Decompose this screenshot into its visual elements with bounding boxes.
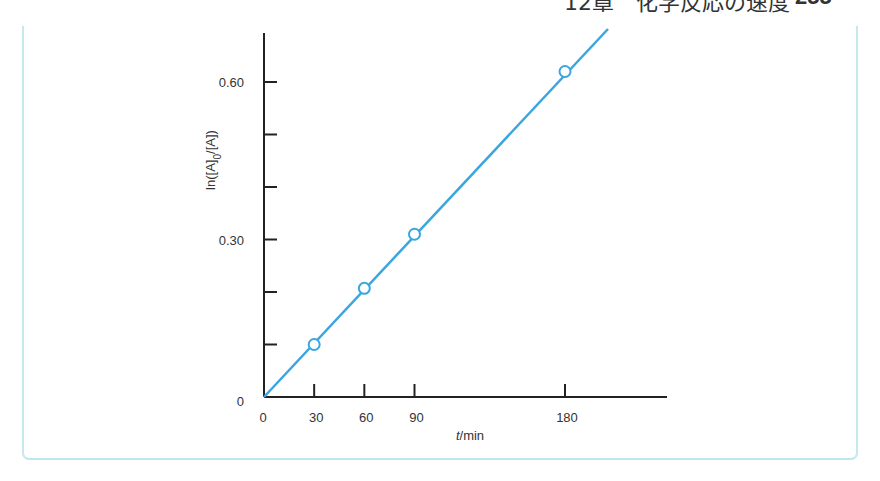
x-tick-label: 0 bbox=[259, 410, 266, 425]
x-axis-title: t/min bbox=[456, 428, 484, 443]
y-axis-title: ln([A]0/[A]) bbox=[203, 130, 223, 190]
data-point bbox=[309, 339, 320, 350]
x-tick-label: 30 bbox=[309, 410, 323, 425]
data-point bbox=[560, 66, 571, 77]
chart: 00.300.600306090180t/minln([A]0/[A]) bbox=[0, 0, 880, 481]
y-tick-label: 0.60 bbox=[219, 75, 244, 90]
data-point bbox=[359, 283, 370, 294]
data-point bbox=[409, 229, 420, 240]
x-tick-label: 60 bbox=[359, 410, 373, 425]
y-tick-label: 0.30 bbox=[219, 233, 244, 248]
x-tick-label: 90 bbox=[409, 410, 423, 425]
x-tick-label: 180 bbox=[556, 410, 578, 425]
y-tick-label: 0 bbox=[237, 394, 244, 409]
